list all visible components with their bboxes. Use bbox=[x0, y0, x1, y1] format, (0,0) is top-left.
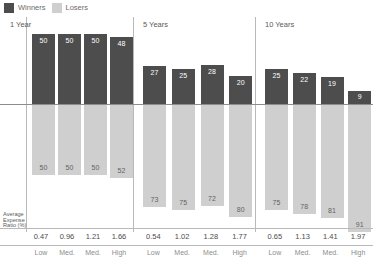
bar-value-loser: 72 bbox=[201, 195, 224, 203]
bar-loser: 50 bbox=[84, 105, 107, 175]
bar-winner: 50 bbox=[32, 34, 55, 104]
tier-label: Med. bbox=[55, 249, 79, 256]
bar-winner: 28 bbox=[201, 65, 224, 104]
bar-value-loser: 80 bbox=[229, 206, 252, 214]
footer-cell: 0.65 Low bbox=[262, 228, 288, 265]
bar-group: 50 50 bbox=[29, 17, 53, 232]
expense-ratio-value: 1.77 bbox=[226, 232, 253, 241]
bar-loser: 72 bbox=[201, 105, 224, 206]
expense-ratio-caption: Average Expense Ratio (%) bbox=[3, 212, 33, 229]
expense-ratio-value: 1.41 bbox=[318, 232, 344, 241]
bar-value-winner: 25 bbox=[172, 72, 195, 80]
expense-ratio-value: 0.65 bbox=[262, 232, 288, 241]
footer-columns: 0.47 Low 0.96 Med. 1.21 Med. 1.66 High bbox=[0, 228, 373, 265]
square-swatch-icon bbox=[52, 3, 62, 13]
expense-ratio-value: 0.54 bbox=[140, 232, 167, 241]
bar-group: 50 50 bbox=[55, 17, 79, 232]
bar-winner: 27 bbox=[143, 66, 166, 104]
footer-cell: 1.77 High bbox=[226, 228, 253, 265]
footer-cell: 1.28 Med. bbox=[198, 228, 225, 265]
footer-cell: 1.13 Med. bbox=[290, 228, 316, 265]
bar-group: 19 81 bbox=[318, 17, 344, 232]
tier-label: High bbox=[107, 249, 131, 256]
tier-label: Med. bbox=[169, 249, 196, 256]
panel-5-years: 5 Years 27 73 25 75 bbox=[133, 17, 255, 232]
expense-ratio-value: 1.66 bbox=[107, 232, 131, 241]
bar-loser: 91 bbox=[348, 105, 371, 232]
expense-ratio-value: 0.96 bbox=[55, 232, 79, 241]
bar-value-loser: 73 bbox=[143, 196, 166, 204]
bar-group: 20 80 bbox=[226, 17, 253, 232]
bar-value-loser: 50 bbox=[58, 164, 81, 172]
bar-loser: 75 bbox=[265, 105, 288, 210]
footer-cell: 1.21 Med. bbox=[81, 228, 105, 265]
bar-loser: 75 bbox=[172, 105, 195, 210]
tier-label: Med. bbox=[81, 249, 105, 256]
footer-cell: 1.41 Med. bbox=[318, 228, 344, 265]
tier-label: Med. bbox=[318, 249, 344, 256]
bar-loser: 50 bbox=[32, 105, 55, 175]
chart-panels: 1 Year 50 50 50 50 bbox=[0, 17, 373, 232]
chart-legend: Winners Losers bbox=[4, 2, 88, 14]
bar-group: 27 73 bbox=[140, 17, 167, 232]
bar-series-group: 25 75 22 78 19 bbox=[255, 17, 373, 232]
bar-loser: 78 bbox=[293, 105, 316, 214]
bar-loser: 50 bbox=[58, 105, 81, 175]
expense-ratio-value: 1.02 bbox=[169, 232, 196, 241]
bar-winner: 20 bbox=[229, 76, 252, 104]
expense-ratio-value: 1.21 bbox=[81, 232, 105, 241]
bar-winner: 22 bbox=[293, 73, 316, 104]
bar-value-loser: 52 bbox=[110, 167, 133, 175]
bar-loser: 81 bbox=[321, 105, 344, 218]
bar-value-winner: 50 bbox=[32, 37, 55, 45]
bar-value-loser: 50 bbox=[84, 164, 107, 172]
bar-group: 22 78 bbox=[290, 17, 316, 232]
legend-item-losers: Losers bbox=[52, 3, 89, 13]
bar-value-winner: 22 bbox=[293, 76, 316, 84]
bar-group: 28 72 bbox=[198, 17, 225, 232]
square-swatch-icon bbox=[4, 3, 14, 13]
legend-item-winners: Winners bbox=[4, 3, 46, 13]
expense-ratio-value: 1.97 bbox=[345, 232, 371, 241]
bar-value-winner: 50 bbox=[58, 37, 81, 45]
bar-group: 9 91 bbox=[345, 17, 371, 232]
footer-cells: 0.54 Low 1.02 Med. 1.28 Med. 1.77 High bbox=[133, 228, 255, 265]
footer-cells: 0.65 Low 1.13 Med. 1.41 Med. 1.97 High bbox=[255, 228, 373, 265]
bar-value-winner: 20 bbox=[229, 79, 252, 87]
tier-label: Low bbox=[29, 249, 53, 256]
bar-value-loser: 75 bbox=[172, 199, 195, 207]
footer-panel-1-year: 0.47 Low 0.96 Med. 1.21 Med. 1.66 High bbox=[0, 228, 133, 265]
panel-10-years: 10 Years 25 75 22 78 bbox=[255, 17, 373, 232]
tier-label: High bbox=[345, 249, 371, 256]
bar-series-group: 27 73 25 75 28 bbox=[133, 17, 255, 232]
bar-group: 50 50 bbox=[81, 17, 105, 232]
bar-winner: 25 bbox=[172, 69, 195, 104]
bar-group: 25 75 bbox=[262, 17, 288, 232]
bar-value-winner: 9 bbox=[348, 93, 371, 101]
footer-panel-5-years: 0.54 Low 1.02 Med. 1.28 Med. 1.77 High bbox=[133, 228, 255, 265]
tier-label: Med. bbox=[290, 249, 316, 256]
footer-cell: 1.66 High bbox=[107, 228, 131, 265]
bar-value-winner: 28 bbox=[201, 68, 224, 76]
footer-cell: 1.97 High bbox=[345, 228, 371, 265]
bar-value-loser: 75 bbox=[265, 199, 288, 207]
bar-value-winner: 25 bbox=[265, 72, 288, 80]
bar-value-winner: 19 bbox=[321, 80, 344, 88]
bar-loser: 80 bbox=[229, 105, 252, 217]
diverging-bar-chart: Winners Losers 1 Year 50 50 bbox=[0, 0, 373, 265]
legend-label-losers: Losers bbox=[66, 3, 89, 13]
expense-ratio-value: 0.47 bbox=[29, 232, 53, 241]
expense-ratio-value: 1.13 bbox=[290, 232, 316, 241]
bar-value-loser: 81 bbox=[321, 207, 344, 215]
bar-winner: 19 bbox=[321, 77, 344, 104]
bar-loser: 52 bbox=[110, 105, 133, 178]
tier-label: High bbox=[226, 249, 253, 256]
footer-cell: 0.47 Low bbox=[29, 228, 53, 265]
bar-winner: 50 bbox=[84, 34, 107, 104]
footer-cell: 0.54 Low bbox=[140, 228, 167, 265]
bar-value-loser: 50 bbox=[32, 164, 55, 172]
legend-label-winners: Winners bbox=[18, 3, 46, 13]
bar-winner: 50 bbox=[58, 34, 81, 104]
bar-value-winner: 50 bbox=[84, 37, 107, 45]
tier-label: Med. bbox=[198, 249, 225, 256]
